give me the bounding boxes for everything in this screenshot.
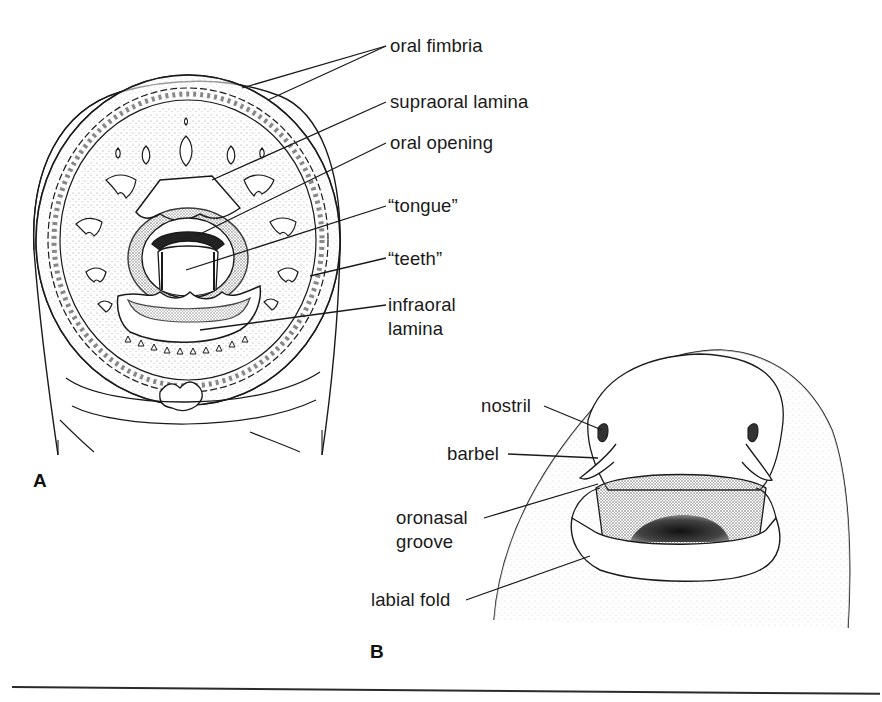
label-oronasal-groove-line2: groove — [396, 531, 453, 553]
label-tongue: “tongue” — [388, 195, 458, 217]
label-barbel: barbel — [447, 443, 499, 465]
label-teeth: “teeth” — [388, 248, 442, 270]
label-oral-fimbria: oral fimbria — [390, 35, 483, 57]
label-labial-fold: labial fold — [371, 589, 450, 611]
label-infraoral-lamina-line1: infraoral — [388, 294, 456, 316]
label-infraoral-lamina-line2: lamina — [388, 318, 443, 340]
label-oral-opening: oral opening — [390, 132, 493, 154]
figure: oral fimbria supraoral lamina oral openi… — [0, 0, 882, 702]
panel-a-letter: A — [33, 470, 47, 492]
hagfish-head-drawing — [494, 350, 850, 628]
label-oronasal-groove-line1: oronasal — [396, 507, 468, 529]
label-nostril: nostril — [481, 395, 531, 417]
lamprey-oral-disc-drawing — [34, 75, 340, 455]
label-supraoral-lamina: supraoral lamina — [390, 91, 528, 113]
panel-b-letter: B — [370, 641, 384, 663]
